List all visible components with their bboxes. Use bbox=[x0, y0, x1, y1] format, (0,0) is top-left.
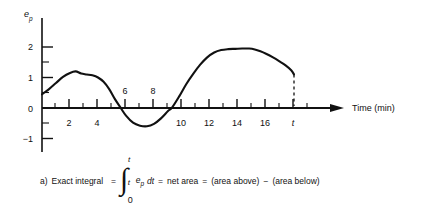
y-axis-title: ep bbox=[24, 9, 33, 23]
integral-ghost-upper-limit: t bbox=[128, 155, 130, 164]
x-axis-arrowhead bbox=[330, 104, 344, 112]
integral-upper-limit: t bbox=[128, 178, 133, 187]
caption-lead-text: Exact integral bbox=[52, 176, 104, 186]
caption-equals-2: = bbox=[158, 176, 163, 186]
caption-equals-3: = bbox=[202, 176, 207, 186]
integrand-subscript: p bbox=[140, 180, 144, 187]
caption-term-below: (area below) bbox=[272, 176, 319, 186]
x-tick-label-2: 2 bbox=[66, 118, 71, 128]
caption-net-area: net area bbox=[167, 176, 198, 186]
x-axis-title: Time (min) bbox=[352, 103, 395, 113]
caption-equals-1: = bbox=[111, 176, 116, 186]
y-tick-label-0: 0 bbox=[28, 104, 33, 114]
caption-minus-sign: − bbox=[263, 176, 268, 186]
caption-prefix: a) bbox=[40, 176, 48, 186]
y-tick-label-1: 1 bbox=[28, 73, 33, 83]
y-tick-label-minus1: −1 bbox=[23, 134, 33, 144]
x-tick-label-8: 8 bbox=[150, 86, 155, 96]
x-tick-label-12: 12 bbox=[204, 118, 214, 128]
x-tick-label-16: 16 bbox=[260, 118, 270, 128]
integral-expression: t ∫ t 0 bbox=[120, 164, 133, 198]
x-major-ticks bbox=[69, 99, 293, 108]
x-tick-label-4: 4 bbox=[94, 118, 99, 128]
x-tick-label-t: t bbox=[292, 118, 295, 128]
y-axis-title-subscript: p bbox=[28, 15, 33, 23]
integrand-ep: ep bbox=[136, 175, 144, 187]
integral-differential: dt bbox=[147, 176, 154, 186]
x-tick-label-6: 6 bbox=[122, 86, 127, 96]
integral-limits: t 0 bbox=[128, 177, 133, 204]
x-tick-label-10: 10 bbox=[176, 118, 186, 128]
integral-lower-limit: 0 bbox=[128, 195, 133, 203]
data-curve-ep bbox=[42, 48, 294, 126]
x-tick-label-14: 14 bbox=[232, 118, 242, 128]
y-tick-label-2: 2 bbox=[28, 42, 33, 52]
caption-term-above: (area above) bbox=[211, 176, 259, 186]
figure-caption: a) Exact integral = t ∫ t 0 ep dt = net … bbox=[40, 162, 420, 200]
